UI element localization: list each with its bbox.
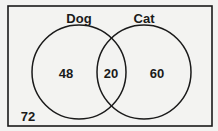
venn-diagram: Dog Cat 48 20 60 72 (0, 0, 218, 131)
cat-label: Cat (134, 11, 156, 26)
intersection-value: 20 (104, 66, 118, 81)
dog-only-value: 48 (59, 66, 73, 81)
outside-value: 72 (21, 109, 35, 124)
cat-only-value: 60 (150, 66, 164, 81)
dog-label: Dog (66, 11, 91, 26)
